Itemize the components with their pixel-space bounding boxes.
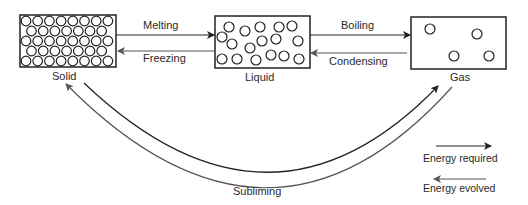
boiling-label: Boiling	[341, 19, 374, 31]
solid-label: Solid	[52, 70, 76, 82]
melting-label: Melting	[143, 19, 178, 31]
subliming-arc-solid-to-gas	[84, 83, 438, 172]
subliming-label: Subliming	[233, 185, 281, 197]
states-of-matter-diagram	[0, 0, 528, 205]
solid-box	[20, 15, 116, 67]
legend-energy-evolved-label: Energy evolved	[423, 182, 495, 194]
freezing-label: Freezing	[143, 52, 186, 64]
gas-box	[411, 17, 506, 69]
liquid-box	[215, 16, 310, 68]
gas-label: Gas	[450, 71, 470, 83]
liquid-label: Liquid	[245, 71, 274, 83]
legend-energy-required-label: Energy required	[423, 152, 498, 164]
condensing-label: Condensing	[329, 55, 388, 67]
